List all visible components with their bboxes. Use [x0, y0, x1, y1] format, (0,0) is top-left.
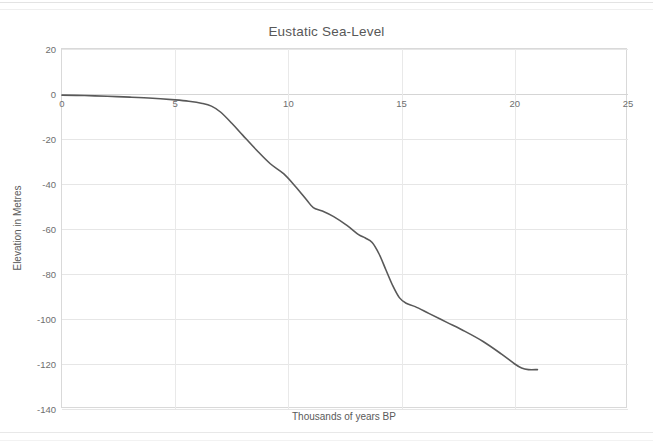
y-tick-label--120: -120 — [37, 359, 56, 370]
y-tick-label-20: 20 — [45, 44, 56, 55]
page-top-rule-2 — [0, 9, 653, 10]
y-tick-label-0: 0 — [51, 89, 56, 100]
page-bottom-rule-2 — [0, 440, 653, 441]
x-axis-title: Thousands of years BP — [61, 411, 627, 422]
y-axis-title: Elevation in Metres — [12, 48, 26, 408]
chart-title: Eustatic Sea-Level — [0, 24, 653, 39]
y-tick-label--20: -20 — [42, 134, 56, 145]
y-tick-label--80: -80 — [42, 269, 56, 280]
y-tick-label--140: -140 — [37, 404, 56, 415]
page-bottom-rule-1 — [0, 432, 653, 433]
y-tick-label--40: -40 — [42, 179, 56, 190]
plot-area: 200-20-40-60-80-100-120-140 0510152025 — [61, 48, 627, 408]
screenshot-page: Eustatic Sea-Level Elevation in Metres T… — [0, 0, 653, 447]
y-tick-label--100: -100 — [37, 314, 56, 325]
data-series-line — [62, 49, 628, 409]
sea-level-curve — [62, 95, 537, 370]
chart-container: Eustatic Sea-Level Elevation in Metres T… — [0, 12, 653, 430]
y-tick-label--60: -60 — [42, 224, 56, 235]
page-top-rule-1 — [0, 2, 653, 3]
gridline-y--140 — [62, 409, 628, 410]
